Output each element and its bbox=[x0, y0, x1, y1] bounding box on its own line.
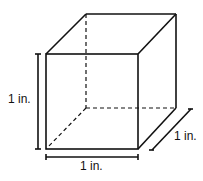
cube-diagram: 1 in. 1 in. 1 in. bbox=[0, 0, 203, 181]
depth-label: 1 in. bbox=[174, 129, 197, 143]
width-label: 1 in. bbox=[80, 159, 103, 173]
height-dimension-line bbox=[35, 54, 41, 149]
height-label: 1 in. bbox=[8, 92, 31, 106]
